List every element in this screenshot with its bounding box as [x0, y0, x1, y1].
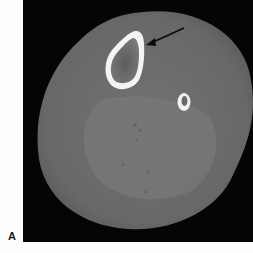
ct-image-panel	[23, 0, 253, 242]
muscle-compartment	[84, 96, 217, 199]
panel-label: A	[8, 230, 16, 242]
ct-scan-image	[23, 0, 253, 242]
fibula	[178, 93, 191, 111]
